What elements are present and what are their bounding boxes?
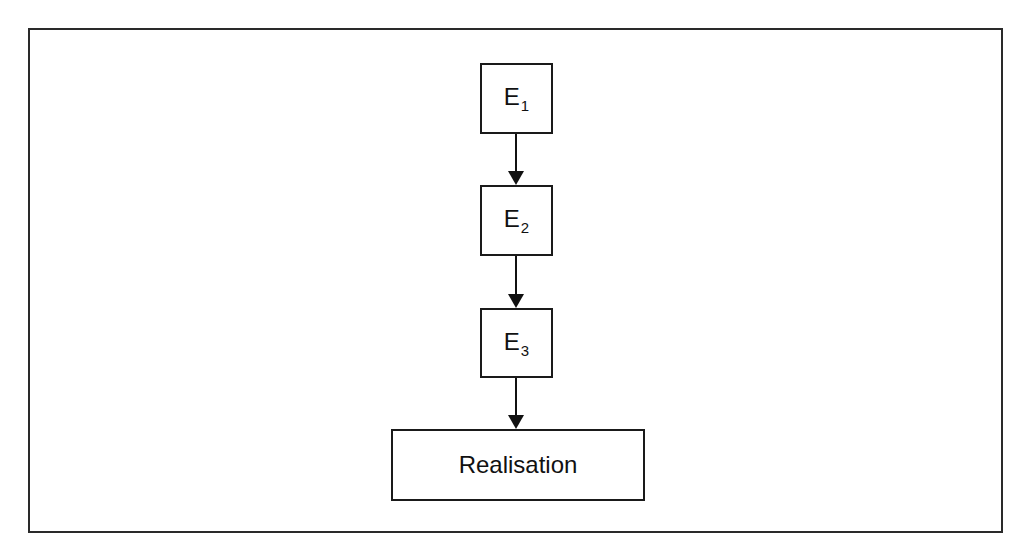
node-realisation: Realisation: [391, 429, 645, 501]
edge-e3-realisation: [515, 378, 517, 416]
arrowhead-e3-realisation: [508, 415, 524, 429]
node-e1-label: E1: [504, 83, 529, 114]
node-e2-label: E2: [504, 205, 529, 236]
arrowhead-e2-e3: [508, 294, 524, 308]
edge-e1-e2: [515, 134, 517, 172]
arrowhead-e1-e2: [508, 171, 524, 185]
node-e3-label: E3: [504, 328, 529, 359]
edge-e2-e3: [515, 256, 517, 295]
node-e3: E3: [480, 308, 553, 378]
node-e2: E2: [480, 185, 553, 256]
node-e1: E1: [480, 63, 553, 134]
node-realisation-label: Realisation: [459, 451, 578, 479]
